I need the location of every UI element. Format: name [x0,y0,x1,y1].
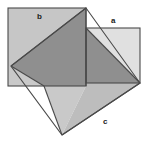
label-c: c [103,118,107,126]
label-b: b [37,13,42,21]
pythagorean-figure: b a c [0,0,150,147]
label-a: a [111,17,115,25]
square-b-group [8,8,86,86]
geometry-diagram-svg [0,0,150,147]
